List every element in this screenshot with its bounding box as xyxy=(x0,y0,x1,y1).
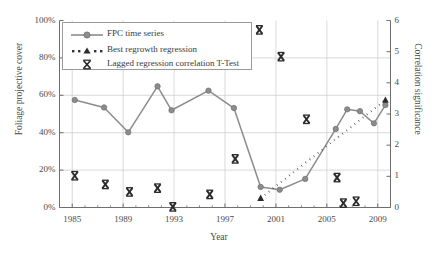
y-tick-left-4: 80% xyxy=(20,52,56,62)
legend-label-fpc: FPC time series xyxy=(107,28,164,38)
x-tick-5: 2005 xyxy=(305,214,349,224)
line-circle-icon xyxy=(69,27,105,43)
y-tick-left-2: 40% xyxy=(20,127,56,137)
y-tick-right-5: 5 xyxy=(395,46,431,56)
y-tick-right-3: 3 xyxy=(395,108,431,118)
chart-legend: FPC time series Best regrowth regression xyxy=(62,22,252,70)
x-tick-6: 2009 xyxy=(356,214,400,224)
x-marker-icon xyxy=(69,57,105,73)
legend-label-ttest: Lagged regression correlation T-Test xyxy=(107,58,239,68)
y-tick-left-5: 100% xyxy=(20,15,56,25)
chart-figure: Foliage projective cover Correlation sig… xyxy=(0,0,438,256)
legend-label-regression: Best regrowth regression xyxy=(107,44,197,54)
x-tick-2: 1993 xyxy=(152,214,196,224)
x-tick-1: 1989 xyxy=(101,214,145,224)
y-tick-right-0: 0 xyxy=(395,202,431,212)
legend-item-ttest: Lagged regression correlation T-Test xyxy=(63,57,253,73)
x-tick-3: 1997 xyxy=(203,214,247,224)
x-tick-0: 1985 xyxy=(50,214,94,224)
y-tick-left-0: 0% xyxy=(20,202,56,212)
y-tick-right-6: 6 xyxy=(395,15,431,25)
y-tick-left-3: 60% xyxy=(20,89,56,99)
x-axis-label: Year xyxy=(0,232,438,242)
series-fpc-time-series xyxy=(72,84,388,193)
y-tick-left-1: 20% xyxy=(20,164,56,174)
x-tick-4: 2001 xyxy=(254,214,298,224)
y-tick-right-2: 2 xyxy=(395,139,431,149)
y-tick-right-1: 1 xyxy=(395,170,431,180)
y-tick-right-4: 4 xyxy=(395,77,431,87)
legend-item-fpc: FPC time series xyxy=(63,27,253,43)
